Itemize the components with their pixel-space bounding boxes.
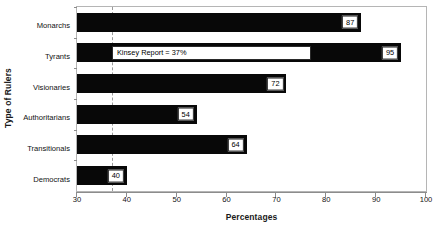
- bar-value-label: 72: [267, 77, 283, 90]
- x-axis-tick-label: 70: [272, 196, 280, 204]
- y-axis-tick: [74, 7, 77, 8]
- bar-row: 64: [77, 135, 426, 154]
- x-axis-tick-label: 100: [420, 196, 433, 204]
- bar-transitionals: [77, 135, 247, 154]
- bar-visionaries: [77, 74, 286, 93]
- plot-area: 879572546440Kinsey Report = 37%: [76, 6, 427, 192]
- y-axis-tick: [74, 99, 77, 100]
- y-axis-title-text: Type of Rulers: [3, 68, 13, 128]
- x-axis-tick-label: 60: [222, 196, 230, 204]
- y-axis-tick: [74, 130, 77, 131]
- x-axis-tick-label: 50: [172, 196, 180, 204]
- y-axis-title: Type of Rulers: [0, 0, 16, 196]
- y-axis-category-labels: MonarchsTyrantsVisionariesAuthoritarians…: [16, 14, 73, 192]
- y-axis-tick: [74, 68, 77, 69]
- x-axis-tick-label: 40: [123, 196, 131, 204]
- bar-monarchs: [77, 13, 361, 32]
- y-axis-tick: [74, 160, 77, 161]
- bar-value-label: 54: [178, 108, 194, 121]
- bar-row: 72: [77, 74, 426, 93]
- bar-value-label: 40: [108, 169, 124, 182]
- bar-value-label: 87: [342, 16, 358, 29]
- y-axis-tick: [74, 38, 77, 39]
- bar-chart: Type of Rulers MonarchsTyrantsVisionarie…: [0, 0, 437, 233]
- annotation-kinsey-report: Kinsey Report = 37%: [112, 46, 311, 60]
- x-axis-tick-label: 90: [372, 196, 380, 204]
- bar-value-label: 64: [227, 139, 243, 152]
- x-axis-tick-label: 30: [73, 196, 81, 204]
- reference-line: [112, 7, 113, 191]
- bar-row: 87: [77, 13, 426, 32]
- x-axis-tick-label: 80: [322, 196, 330, 204]
- bar-row: 54: [77, 105, 426, 124]
- x-axis-line: [76, 192, 427, 193]
- bar-row: 40: [77, 166, 426, 185]
- bar-value-label: 95: [382, 47, 398, 60]
- x-axis-title: Percentages: [76, 212, 427, 222]
